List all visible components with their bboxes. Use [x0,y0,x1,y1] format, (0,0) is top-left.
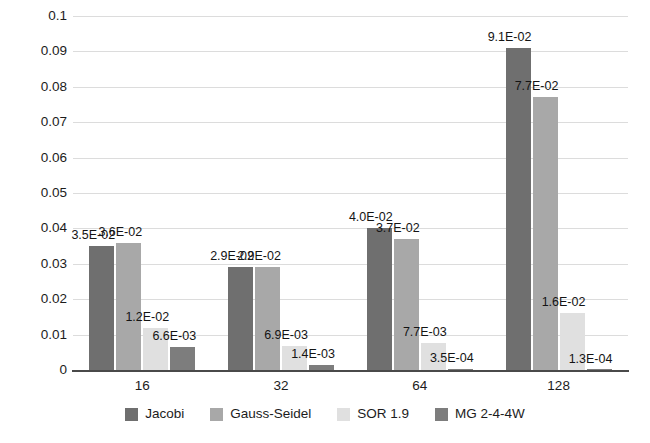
bar-value-label: 6.6E-03 [152,330,196,343]
bar-group: 9.1E-027.7E-021.6E-021.3E-04 [489,16,628,370]
legend-item-gauss-seidel[interactable]: Gauss-Seidel [210,407,311,421]
y-axis-tick-label: 0.1 [7,9,67,23]
y-axis-tick-label: 0.06 [7,151,67,165]
y-axis-tick-label: 0.08 [7,80,67,94]
bar[interactable] [394,239,419,370]
bar-value-label: 1.3E-04 [569,353,613,366]
legend-swatch-icon [435,408,448,421]
plot-area: 3.5E-023.6E-021.2E-026.6E-032.9E-022.9E-… [73,16,628,370]
bar-value-label: 3.5E-04 [430,352,474,365]
bar[interactable] [228,267,253,370]
legend-item-jacobi[interactable]: Jacobi [125,407,184,421]
legend-label: Jacobi [145,407,184,421]
bar[interactable] [255,267,280,370]
bar[interactable] [506,48,531,370]
bar-value-label: 3.7E-02 [376,222,420,235]
x-axis: 163264128 [73,378,628,398]
x-axis-tick-label: 16 [73,378,212,394]
bar[interactable] [367,228,392,370]
y-axis-tick-label: 0.04 [7,221,67,235]
legend-label: Gauss-Seidel [230,407,311,421]
legend-swatch-icon [125,408,138,421]
y-axis-tick-label: 0.02 [7,292,67,306]
y-axis-tick-label: 0 [7,363,67,377]
bar-value-label: 7.7E-03 [403,326,447,339]
bar[interactable] [170,347,195,370]
x-axis-line [72,370,629,372]
y-axis-tick-label: 0.01 [7,328,67,342]
bar-value-label: 1.6E-02 [542,296,586,309]
bar[interactable] [116,243,141,370]
bar[interactable] [533,97,558,370]
x-axis-tick-label: 64 [351,378,490,394]
bar-value-label: 1.4E-03 [291,348,335,361]
x-axis-tick-label: 32 [212,378,351,394]
bar-group: 2.9E-022.9E-026.9E-031.4E-03 [212,16,351,370]
legend-item-sor-1-9[interactable]: SOR 1.9 [337,407,409,421]
bar[interactable] [89,246,114,370]
y-axis-tick-label: 0.03 [7,257,67,271]
y-axis-tick-label: 0.07 [7,115,67,129]
x-axis-tick-label: 128 [489,378,628,394]
y-axis: 00.010.020.030.040.050.060.070.080.090.1 [0,0,67,443]
bar-group: 3.5E-023.6E-021.2E-026.6E-03 [73,16,212,370]
bar-chart: 00.010.020.030.040.050.060.070.080.090.1… [0,0,650,443]
bar-value-label: 6.9E-03 [264,329,308,342]
bar-value-label: 9.1E-02 [488,31,532,44]
legend-item-mg-2-4-4w[interactable]: MG 2-4-4W [435,407,525,421]
y-axis-tick-label: 0.09 [7,44,67,58]
bar-value-label: 3.6E-02 [98,226,142,239]
bar-value-label: 7.7E-02 [515,80,559,93]
bar-group: 4.0E-023.7E-027.7E-033.5E-04 [351,16,490,370]
legend-label: MG 2-4-4W [455,407,525,421]
y-axis-tick-label: 0.05 [7,186,67,200]
legend-label: SOR 1.9 [357,407,409,421]
bar-value-label: 2.9E-02 [237,250,281,263]
legend-swatch-icon [210,408,223,421]
bar-value-label: 1.2E-02 [125,311,169,324]
legend-swatch-icon [337,408,350,421]
chart-legend: JacobiGauss-SeidelSOR 1.9MG 2-4-4W [0,404,650,424]
